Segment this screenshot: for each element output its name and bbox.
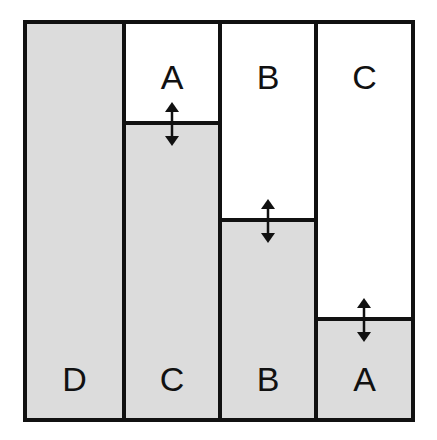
column-1-fill (27, 24, 122, 418)
double-arrow-icon (261, 199, 275, 243)
column-4: C A (318, 24, 411, 418)
column-1: D (27, 24, 122, 418)
diagram-frame: D A C B B C A (23, 20, 415, 422)
column-4-bottom-label: A (318, 362, 411, 396)
column-3: B B (222, 24, 314, 418)
column-3-top-label: B (222, 60, 314, 94)
column-2: A C (126, 24, 218, 418)
double-arrow-icon (165, 102, 179, 146)
column-2-top-label: A (126, 60, 218, 94)
double-arrow-icon (357, 298, 371, 342)
column-2-bottom-label: C (126, 362, 218, 396)
column-3-bottom-label: B (222, 362, 314, 396)
column-1-bottom-label: D (27, 362, 122, 396)
column-4-top-label: C (318, 60, 411, 94)
